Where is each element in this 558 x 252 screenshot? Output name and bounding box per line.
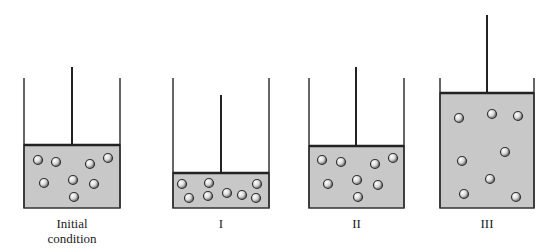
label-line-1: I — [171, 216, 271, 231]
gas-particle — [460, 190, 469, 199]
gas-region — [440, 93, 534, 208]
gas-particle — [204, 192, 213, 201]
label-line-1: II — [307, 216, 407, 231]
gas-particle — [458, 157, 467, 166]
gas-particle — [252, 194, 261, 203]
gas-particle — [34, 156, 43, 165]
gas-particle — [455, 114, 464, 123]
gas-particle — [90, 180, 99, 189]
gas-particle — [205, 179, 214, 188]
container-III — [440, 15, 534, 208]
gas-particle — [354, 193, 363, 202]
gas-particle — [371, 160, 380, 169]
gas-particle — [52, 158, 61, 167]
gas-particle — [337, 158, 346, 167]
gas-particle — [223, 189, 232, 198]
gas-particle — [374, 181, 383, 190]
gas-particle — [389, 154, 398, 163]
gas-particle — [238, 191, 247, 200]
gas-particle — [185, 194, 194, 203]
container-I — [173, 78, 269, 208]
gas-particle — [104, 154, 113, 163]
label-line-2: condition — [22, 231, 122, 246]
container-II — [309, 67, 404, 208]
gas-particle — [324, 180, 333, 189]
gas-particle — [86, 160, 95, 169]
label-I: I — [171, 216, 271, 231]
gas-particle — [70, 193, 79, 202]
gas-particle — [501, 148, 510, 157]
gas-particle — [69, 176, 78, 185]
gas-particle — [514, 112, 523, 121]
gas-particle — [353, 176, 362, 185]
gas-particle — [318, 156, 327, 165]
gas-particle — [486, 175, 495, 184]
gas-particle — [488, 110, 497, 119]
gas-particle — [253, 180, 262, 189]
gas-particle — [40, 179, 49, 188]
gas-particle — [512, 193, 521, 202]
label-line-1: Initial — [22, 216, 122, 231]
label-initial: Initialcondition — [22, 216, 122, 246]
label-line-1: III — [437, 216, 537, 231]
gas-particle — [178, 180, 187, 189]
label-II: II — [307, 216, 407, 231]
label-III: III — [437, 216, 537, 231]
container-initial — [24, 67, 120, 208]
gas-piston-diagram — [0, 0, 558, 252]
